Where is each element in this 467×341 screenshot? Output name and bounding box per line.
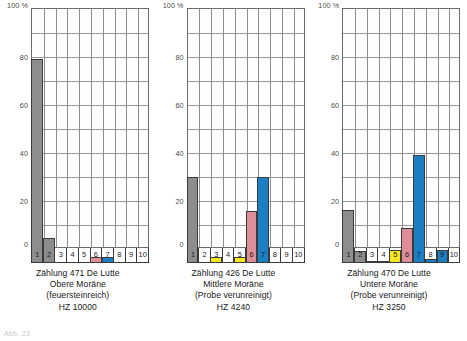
chart-panel-2: 100 % 80 60 40 20 0 12345678910 Zählung … — [156, 0, 312, 341]
caption-line-2-3: HZ 4240 — [156, 302, 312, 313]
y-tick-20-1: 20 — [20, 198, 28, 205]
x-tick-10: 10 — [449, 248, 460, 262]
caption-line-3-1: Untere Moräne — [311, 279, 467, 290]
bar-7 — [413, 155, 425, 263]
figure-footnote: Abb. 23 — [4, 330, 30, 337]
x-tick-3: 3 — [211, 248, 223, 262]
plot-area-3: 12345678910 — [342, 8, 460, 263]
y-axis-top-label-2: 100 % — [163, 2, 184, 9]
x-tick-2: 2 — [355, 248, 367, 262]
y-tick-40-2: 40 — [175, 150, 183, 157]
x-axis-2: 12345678910 — [187, 248, 305, 263]
chart-caption-2: Zählung 426 De Lutte Mittlere Moräne (Pr… — [156, 268, 312, 313]
y-axis-labels-1: 100 % 80 60 40 20 0 — [0, 0, 31, 263]
bar-series-2 — [187, 23, 305, 263]
x-tick-7: 7 — [102, 248, 114, 262]
x-tick-8: 8 — [114, 248, 126, 262]
y-tick-60-2: 60 — [175, 102, 183, 109]
y-tick-40-3: 40 — [331, 150, 339, 157]
x-tick-7: 7 — [258, 248, 270, 262]
chart-panel-3: 100 % 80 60 40 20 0 12345678910 Zählung … — [311, 0, 467, 341]
chart-caption-3: Zählung 470 De Lutte Untere Moräne (Prob… — [311, 268, 467, 313]
y-tick-40-1: 40 — [20, 150, 28, 157]
caption-line-1-1: Obere Moräne — [0, 279, 156, 290]
plot-area-1: 12345678910 — [31, 8, 149, 263]
chart-panel-1: 100 % 80 60 40 20 0 12345678910 Zählung … — [0, 0, 156, 341]
caption-line-1-0: Zählung 471 De Lutte — [0, 268, 156, 279]
y-tick-0-2: 0 — [179, 241, 183, 248]
bar-series-1 — [31, 23, 149, 263]
caption-line-3-2: (Probe verunreinigt) — [311, 290, 467, 301]
y-axis-top-label-1: 100 % — [7, 2, 28, 9]
x-tick-4: 4 — [67, 248, 79, 262]
x-tick-10: 10 — [293, 248, 304, 262]
x-tick-3: 3 — [367, 248, 379, 262]
bar-series-3 — [342, 23, 460, 263]
x-tick-4: 4 — [223, 248, 235, 262]
y-tick-20-3: 20 — [331, 198, 339, 205]
y-tick-0-3: 0 — [335, 241, 339, 248]
caption-line-3-3: HZ 3250 — [311, 302, 467, 313]
y-tick-60-1: 60 — [20, 102, 28, 109]
chart-panels: 100 % 80 60 40 20 0 12345678910 Zählung … — [0, 0, 467, 341]
caption-line-2-2: (Probe verunreinigt) — [156, 290, 312, 301]
x-axis-3: 12345678910 — [342, 248, 460, 263]
x-tick-6: 6 — [246, 248, 258, 262]
x-tick-7: 7 — [413, 248, 425, 262]
x-axis-1: 12345678910 — [31, 248, 149, 263]
x-tick-5: 5 — [390, 248, 402, 262]
caption-line-3-0: Zählung 470 De Lutte — [311, 268, 467, 279]
x-tick-6: 6 — [402, 248, 414, 262]
y-tick-0-1: 0 — [24, 241, 28, 248]
x-tick-2: 2 — [44, 248, 56, 262]
y-axis-labels-3: 100 % 80 60 40 20 0 — [311, 0, 342, 263]
y-tick-60-3: 60 — [331, 102, 339, 109]
y-tick-20-2: 20 — [175, 198, 183, 205]
x-tick-4: 4 — [378, 248, 390, 262]
x-tick-1: 1 — [188, 248, 200, 262]
y-tick-80-2: 80 — [175, 54, 183, 61]
x-tick-1: 1 — [32, 248, 44, 262]
caption-line-2-0: Zählung 426 De Lutte — [156, 268, 312, 279]
x-tick-10: 10 — [137, 248, 148, 262]
x-tick-3: 3 — [55, 248, 67, 262]
caption-line-2-1: Mittlere Moräne — [156, 279, 312, 290]
x-tick-5: 5 — [79, 248, 91, 262]
x-tick-9: 9 — [126, 248, 138, 262]
x-tick-2: 2 — [199, 248, 211, 262]
y-axis-top-label-3: 100 % — [318, 2, 339, 9]
y-tick-80-3: 80 — [331, 54, 339, 61]
chart-caption-1: Zählung 471 De Lutte Obere Moräne (feuer… — [0, 268, 156, 313]
bar-1 — [31, 59, 43, 263]
plot-area-2: 12345678910 — [187, 8, 305, 263]
y-axis-labels-2: 100 % 80 60 40 20 0 — [156, 0, 187, 263]
x-tick-9: 9 — [281, 248, 293, 262]
caption-line-1-3: HZ 10000 — [0, 302, 156, 313]
caption-line-1-2: (feuersteinreich) — [0, 290, 156, 301]
x-tick-9: 9 — [437, 248, 449, 262]
x-tick-1: 1 — [343, 248, 355, 262]
x-tick-5: 5 — [234, 248, 246, 262]
y-tick-80-1: 80 — [20, 54, 28, 61]
x-tick-8: 8 — [425, 248, 437, 262]
x-tick-8: 8 — [270, 248, 282, 262]
x-tick-6: 6 — [91, 248, 103, 262]
